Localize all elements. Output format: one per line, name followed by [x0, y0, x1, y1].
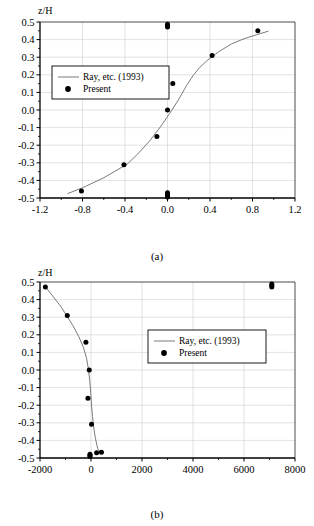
data-point-present [83, 340, 88, 345]
x-axis-tick-label: -2000 [28, 464, 53, 475]
data-point-present [94, 450, 99, 455]
x-axis-tick-label: 6000 [234, 464, 255, 475]
data-point-present [99, 450, 104, 455]
data-point-present [65, 313, 70, 318]
x-axis-tick-label: 0.0 [161, 204, 174, 215]
legend-label-present: Present [179, 348, 207, 358]
data-point-present [269, 284, 274, 289]
chart-legend: Ray, etc. (1993)Present [52, 66, 169, 99]
x-axis-tick-label: 0.8 [246, 204, 259, 215]
x-axis-tick-label: -1.2 [32, 204, 49, 215]
chart-panel-b: z/H -0.5-0.4-0.3-0.2-0.10.00.10.20.30.40… [0, 262, 314, 526]
y-axis-tick-label: -0.2 [18, 140, 35, 151]
plot-area-b: -0.5-0.4-0.3-0.2-0.10.00.10.20.30.40.5-2… [0, 262, 314, 510]
data-point-present [43, 284, 48, 289]
y-axis-tick-label: -0.4 [18, 435, 35, 446]
data-point-present [154, 134, 159, 139]
y-axis-tick-label: 0.5 [21, 277, 34, 288]
y-axis-tick-label: 0.2 [21, 329, 34, 340]
panel-caption-a: (a) [0, 250, 314, 262]
y-axis-tick-label: -0.4 [18, 175, 35, 186]
y-axis-tick-label: 0.1 [21, 87, 34, 98]
y-axis-tick-label: 0.3 [21, 312, 34, 323]
panel-caption-b: (b) [0, 508, 314, 520]
data-point-present [79, 188, 84, 193]
y-axis-tick-label: 0.0 [21, 365, 34, 376]
y-axis-tick-label: -0.1 [18, 122, 35, 133]
y-axis-tick-label: 0.1 [21, 347, 34, 358]
y-axis-tick-label: -0.3 [18, 157, 35, 168]
x-axis-tick-label: -0.8 [74, 204, 91, 215]
y-axis-tick-label: -0.2 [18, 400, 35, 411]
data-point-present [85, 396, 90, 401]
chart-legend: Ray, etc. (1993)Present [148, 330, 266, 363]
data-point-present [170, 81, 175, 86]
y-axis-tick-label: 0.4 [21, 294, 35, 305]
x-axis-tick-label: 1.2 [288, 204, 301, 215]
y-axis-tick-label: 0.5 [21, 17, 34, 28]
x-axis-tick-label: 2000 [132, 464, 153, 475]
x-axis-tick-label: -0.4 [117, 204, 134, 215]
data-point-present [89, 422, 94, 427]
y-axis-tick-label: -0.5 [18, 453, 35, 464]
y-axis-tick-label: 0.2 [21, 69, 34, 80]
y-axis-tick-label: -0.1 [18, 382, 35, 393]
data-point-present [87, 368, 92, 373]
legend-marker-swatch [161, 350, 167, 356]
chart-panel-a: z/H -0.5-0.4-0.3-0.2-0.10.00.10.20.30.40… [0, 0, 314, 268]
y-axis-tick-label: 0.3 [21, 52, 34, 63]
data-point-present [255, 28, 260, 33]
data-point-present [165, 108, 170, 113]
x-axis-tick-label: 0 [88, 464, 93, 475]
x-axis-tick-label: 4000 [183, 464, 204, 475]
plot-area-a: -0.5-0.4-0.3-0.2-0.10.00.10.20.30.40.5-1… [0, 0, 314, 250]
y-axis-tick-label: -0.3 [18, 417, 35, 428]
x-axis-tick-label: 8000 [285, 464, 306, 475]
data-point-present [210, 53, 215, 58]
data-point-present [121, 162, 126, 167]
y-axis-tick-label: 0.0 [21, 105, 34, 116]
legend-label-reference: Ray, etc. (1993) [179, 336, 240, 347]
data-point-present [165, 24, 170, 29]
legend-marker-swatch [65, 86, 71, 92]
legend-label-present: Present [83, 84, 111, 94]
y-axis-tick-label: 0.4 [21, 34, 35, 45]
figure-container: z/H -0.5-0.4-0.3-0.2-0.10.00.10.20.30.40… [0, 0, 314, 526]
x-axis-tick-label: 0.4 [203, 204, 217, 215]
legend-label-reference: Ray, etc. (1993) [83, 72, 144, 83]
y-axis-tick-label: -0.5 [18, 193, 35, 204]
